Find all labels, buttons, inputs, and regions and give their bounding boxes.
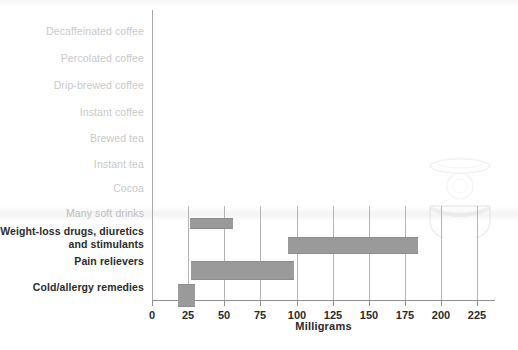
gridline-75 [260,206,261,300]
bar-weight-loss-drugs-diuretics-and-stimulants [288,237,418,254]
tick-100 [297,301,298,306]
bar-pain-relievers [191,261,294,280]
gridline-225 [477,206,478,300]
category-label-percolated-coffee: Percolated coffee [61,52,144,65]
tick-125 [333,301,334,306]
tick-50 [224,301,225,306]
caffeine-range-chart: Decaffeinated coffee Percolated coffee D… [0,0,518,350]
tick-150 [369,301,370,306]
tick-75 [260,301,261,306]
bar-many-soft-drinks [190,218,233,229]
category-label-column: Decaffeinated coffee Percolated coffee D… [0,0,150,300]
category-label-decaffeinated-coffee: Decaffeinated coffee [46,25,144,38]
category-label-cocoa: Cocoa [113,182,144,195]
tick-225 [477,301,478,306]
category-label-drip-brewed-coffee: Drip-brewed coffee [54,79,144,92]
bar-cold-allergy-remedies [178,284,195,307]
tick-0 [152,301,153,306]
category-label-brewed-tea: Brewed tea [90,132,144,145]
category-label-cold-allergy-remedies: Cold/allergy remedies [33,281,144,294]
plot-area: 0 25 50 75 100 125 150 175 200 225 [152,10,495,300]
category-label-pain-relievers: Pain relievers [74,255,144,268]
tick-200 [441,301,442,306]
x-axis-line [152,300,495,301]
category-label-instant-coffee: Instant coffee [80,106,144,119]
category-label-weight-loss-drugs: Weight-loss drugs, diuretics and stimula… [0,225,144,250]
category-label-instant-tea: Instant tea [94,158,144,171]
x-axis-title: Milligrams [152,320,495,332]
tick-175 [405,301,406,306]
category-label-many-soft-drinks: Many soft drinks [66,207,144,220]
gridline-200 [441,206,442,300]
y-axis-line [152,10,153,300]
